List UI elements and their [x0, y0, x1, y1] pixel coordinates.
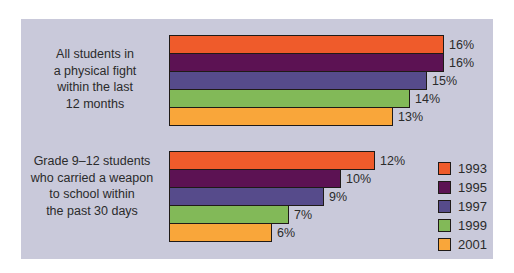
bar-value-label: 7%	[294, 208, 312, 222]
legend-item-1995: 1995	[438, 178, 487, 197]
figure: All students in a physical fight within …	[0, 0, 514, 273]
bar-1997	[169, 187, 324, 206]
bar-group-weapon: 12%10%9%7%6%	[169, 151, 405, 242]
bar-row-1993: 16%	[169, 35, 474, 54]
bar-1995	[169, 53, 444, 72]
bar-row-1999: 14%	[169, 89, 474, 108]
bar-row-1997: 15%	[169, 71, 474, 90]
bar-2001	[169, 223, 272, 242]
legend-swatch-icon	[438, 219, 451, 232]
bar-value-label: 10%	[346, 172, 371, 186]
bar-row-1993: 12%	[169, 151, 405, 170]
bar-row-1997: 9%	[169, 187, 405, 206]
bar-row-2001: 13%	[169, 107, 474, 126]
bar-row-1999: 7%	[169, 205, 405, 224]
bar-value-label: 6%	[277, 226, 295, 240]
bar-value-label: 16%	[449, 38, 474, 52]
bar-1999	[169, 89, 410, 108]
bar-row-1995: 10%	[169, 169, 405, 188]
legend-swatch-icon	[438, 181, 451, 194]
bar-1999	[169, 205, 289, 224]
bar-value-label: 14%	[415, 92, 440, 106]
bar-value-label: 13%	[398, 110, 423, 124]
category-label-fight: All students in a physical fight within …	[25, 46, 165, 112]
category-label-weapon: Grade 9–12 students who carried a weapon…	[22, 153, 162, 219]
bar-1997	[169, 71, 427, 90]
bar-value-label: 12%	[380, 154, 405, 168]
bar-1993	[169, 35, 444, 54]
bar-2001	[169, 107, 393, 126]
bar-value-label: 16%	[449, 56, 474, 70]
bar-1993	[169, 151, 375, 170]
legend-swatch-icon	[438, 238, 451, 251]
bar-value-label: 15%	[432, 74, 457, 88]
legend-swatch-icon	[438, 200, 451, 213]
legend-label: 2001	[458, 237, 487, 252]
bar-value-label: 9%	[329, 190, 347, 204]
bar-row-2001: 6%	[169, 223, 405, 242]
legend-item-1997: 1997	[438, 197, 487, 216]
bar-row-1995: 16%	[169, 53, 474, 72]
legend-item-2001: 2001	[438, 235, 487, 254]
legend-swatch-icon	[438, 162, 451, 175]
legend-label: 1999	[458, 218, 487, 233]
legend-item-1999: 1999	[438, 216, 487, 235]
chart-panel: All students in a physical fight within …	[21, 19, 493, 259]
legend-label: 1993	[458, 161, 487, 176]
legend-label: 1995	[458, 180, 487, 195]
legend-item-1993: 1993	[438, 159, 487, 178]
legend: 19931995199719992001	[438, 159, 487, 254]
bar-1995	[169, 169, 341, 188]
bar-group-fight: 16%16%15%14%13%	[169, 35, 474, 126]
legend-label: 1997	[458, 199, 487, 214]
